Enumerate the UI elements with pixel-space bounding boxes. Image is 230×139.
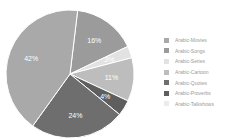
legend-label: Arabic-Quotes <box>175 80 207 86</box>
legend-swatch <box>164 38 169 43</box>
legend-item: Arabic-Cartoon <box>164 67 214 78</box>
legend: Arabic-Movies Arabic-Songs Arabic-Series… <box>164 35 214 109</box>
legend-item: Arabic-Songs <box>164 46 214 57</box>
slice-label: 16% <box>87 37 101 44</box>
legend-label: Arabic-Talkshows <box>175 101 214 107</box>
legend-swatch <box>164 91 169 96</box>
slice-label: 42% <box>24 55 38 62</box>
legend-label: Arabic-Songs <box>175 48 205 54</box>
legend-swatch <box>164 48 169 53</box>
slice-label: 11% <box>105 74 119 81</box>
legend-label: Arabic-Cartoon <box>175 69 209 75</box>
slice-label: 24% <box>68 112 82 119</box>
legend-label: Arabic-Proverbs <box>175 90 211 96</box>
legend-item: Arabic-Series <box>164 56 214 67</box>
legend-label: Arabic-Series <box>175 58 205 64</box>
slice-label: 4% <box>100 93 110 100</box>
legend-swatch <box>164 59 169 64</box>
legend-item: Arabic-Quotes <box>164 77 214 88</box>
legend-swatch <box>164 101 169 106</box>
legend-swatch <box>164 70 169 75</box>
legend-item: Arabic-Talkshows <box>164 99 214 110</box>
legend-label: Arabic-Movies <box>175 37 207 43</box>
legend-item: Arabic-Proverbs <box>164 88 214 99</box>
legend-item: Arabic-Movies <box>164 35 214 46</box>
slice-label: 3% <box>104 56 114 63</box>
legend-swatch <box>164 80 169 85</box>
pie-chart: 16%3%11%4%24%42% <box>0 0 150 139</box>
